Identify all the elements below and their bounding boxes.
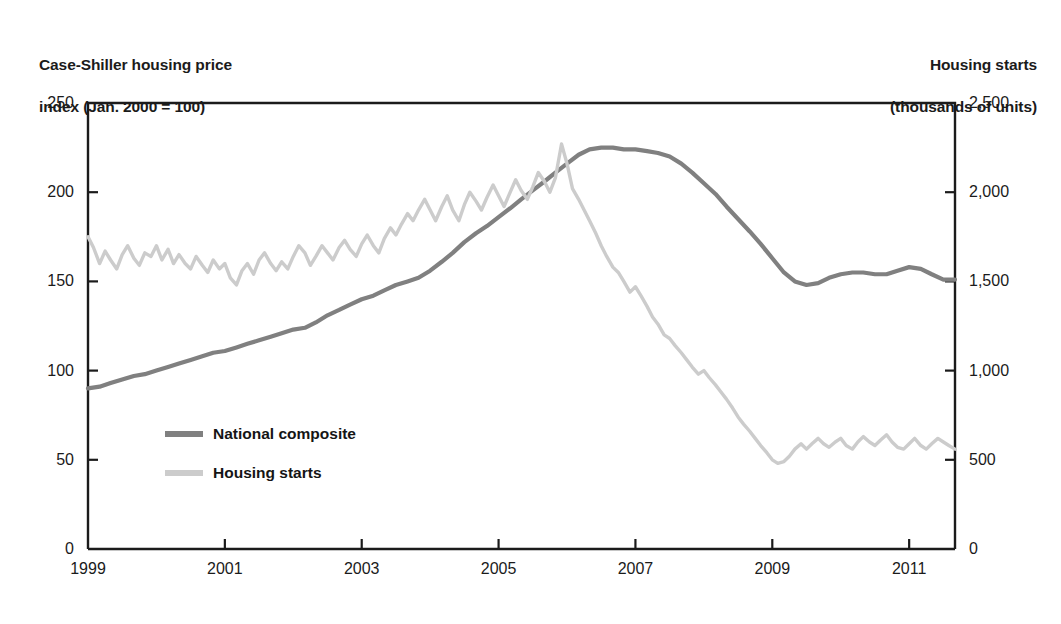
chart-figure: Case-Shiller housing price index (Jan. 2…	[0, 0, 1061, 624]
y-tick-label-left: 0	[65, 540, 74, 558]
y-tick-label-left: 250	[47, 94, 74, 112]
y-tick-label-right: 0	[969, 540, 978, 558]
x-tick-label: 1999	[70, 560, 106, 578]
x-tick-label: 2007	[618, 560, 654, 578]
right-axis-title-line2: (thousands of units)	[890, 98, 1037, 115]
y-tick-label-left: 150	[47, 272, 74, 290]
legend-label: Housing starts	[213, 464, 322, 482]
left-axis-title-line1: Case-Shiller housing price	[39, 56, 232, 73]
x-tick-label: 2011	[892, 560, 926, 578]
x-tick-label: 2009	[754, 560, 790, 578]
y-tick-label-left: 50	[56, 451, 74, 469]
x-tick-label: 2001	[207, 560, 243, 578]
plot-frame	[88, 103, 955, 549]
x-tick-label: 2005	[481, 560, 517, 578]
series-line-housing-starts	[88, 144, 955, 463]
x-tick-label: 2003	[344, 560, 380, 578]
y-tick-label-right: 500	[969, 451, 996, 469]
right-axis-title-line1: Housing starts	[930, 56, 1037, 73]
y-tick-label-right: 2,500	[969, 94, 1009, 112]
y-tick-label-right: 2,000	[969, 183, 1009, 201]
y-tick-label-left: 100	[47, 362, 74, 380]
right-axis-title: Housing starts (thousands of units)	[890, 33, 1037, 117]
legend-label: National composite	[213, 425, 356, 443]
y-tick-label-left: 200	[47, 183, 74, 201]
y-tick-label-right: 1,000	[969, 362, 1009, 380]
y-tick-label-right: 1,500	[969, 272, 1009, 290]
